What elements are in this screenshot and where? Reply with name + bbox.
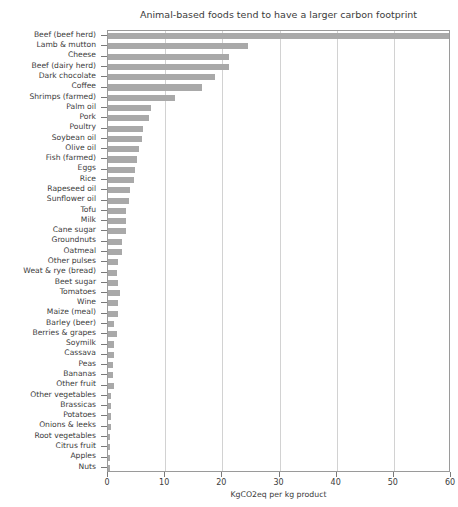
y-axis-tick-label: Weat & rye (bread) [0,267,96,275]
gridline [337,31,338,471]
bar [108,136,142,142]
bar [108,403,111,409]
y-axis-tick-label: Bananas [0,370,96,378]
y-axis-tick [101,374,107,375]
y-axis-tick-label: Maize (meal) [0,308,96,316]
page-title: Animal-based foods tend to have a larger… [107,9,450,20]
gridline [222,31,223,471]
y-axis-tick-label: Berries & grapes [0,329,96,337]
y-axis-tick [101,210,107,211]
bar [108,167,135,173]
y-axis-tick [101,35,107,36]
x-axis-tick [279,472,280,477]
x-axis-tick-label: 10 [144,478,184,487]
y-axis-tick [101,169,107,170]
bar [108,239,122,245]
y-axis-tick-label: Other fruit [0,380,96,388]
y-axis-tick [101,292,107,293]
x-axis-tick [336,472,337,477]
bar [108,228,126,234]
bar [108,383,114,389]
y-axis-tick [101,148,107,149]
y-axis-tick-label: Barley (beer) [0,319,96,327]
y-axis-tick-label: Olive oil [0,144,96,152]
bar [108,455,110,461]
y-axis-tick [101,333,107,334]
y-axis-tick-label: Brassicas [0,401,96,409]
y-axis-tick [101,179,107,180]
y-axis-tick-label: Beef (dairy herd) [0,62,96,70]
y-axis-tick-label: Citrus fruit [0,442,96,450]
y-axis-tick-label: Other vegetables [0,391,96,399]
bar [108,444,110,450]
bar [108,198,129,204]
y-axis-tick-label: Onions & leeks [0,421,96,429]
y-axis-tick-label: Eggs [0,164,96,172]
y-axis-tick-label: Fish (farmed) [0,154,96,162]
x-axis-tick-label: 60 [430,478,458,487]
y-axis-tick [101,302,107,303]
bar [108,331,117,337]
bar [108,372,113,378]
y-axis-tick [101,364,107,365]
y-axis-tick-label: Coffee [0,82,96,90]
bar [108,64,229,70]
bar [108,424,111,430]
y-axis-tick [101,76,107,77]
y-axis-tick-label: Soybean oil [0,134,96,142]
y-axis-tick [101,87,107,88]
y-axis-tick [101,415,107,416]
bar [108,300,118,306]
bar [108,105,151,111]
carbon-footprint-chart-figure: Animal-based foods tend to have a larger… [0,0,458,507]
y-axis-tick [101,107,107,108]
bar [108,249,122,255]
y-axis-tick-label: Sunflower oil [0,195,96,203]
y-axis-tick-label: Potatoes [0,411,96,419]
y-axis-tick-label: Soymilk [0,339,96,347]
y-axis-tick [101,138,107,139]
bar [108,413,111,419]
bar [108,54,229,60]
y-axis-tick [101,251,107,252]
x-axis-label: KgCO2eq per kg product [107,490,450,499]
y-axis-tick-label: Root vegetables [0,432,96,440]
bar [108,146,139,152]
y-axis-tick-label: Poultry [0,123,96,131]
gridline [394,31,395,471]
y-axis-tick-label: Cheese [0,51,96,59]
bar [108,84,202,90]
x-axis-tick-label: 0 [87,478,127,487]
bar [108,341,114,347]
x-axis-tick [221,472,222,477]
y-axis-tick [101,467,107,468]
y-axis-tick-label: Rapeseed oil [0,185,96,193]
bar [108,187,130,193]
y-axis-tick [101,128,107,129]
y-axis-tick [101,282,107,283]
bar [108,270,117,276]
y-axis-tick-label: Palm oil [0,103,96,111]
y-axis-tick-label: Shrimps (farmed) [0,93,96,101]
y-axis-tick [101,323,107,324]
bar [108,362,113,368]
y-axis-tick [101,230,107,231]
y-axis-tick-label: Nuts [0,463,96,471]
y-axis-tick [101,200,107,201]
gridline [280,31,281,471]
y-axis-tick-label: Tomatoes [0,288,96,296]
y-axis-tick [101,261,107,262]
y-axis-tick-label: Cane sugar [0,226,96,234]
bar [108,43,248,49]
x-axis-tick [164,472,165,477]
bar [108,321,114,327]
x-axis-tick [393,472,394,477]
y-axis-tick-label: Wine [0,298,96,306]
y-axis-tick-label: Dark chocolate [0,72,96,80]
y-axis-tick [101,56,107,57]
y-axis-tick [101,395,107,396]
x-axis-tick [107,472,108,477]
y-axis-tick-label: Milk [0,216,96,224]
y-axis-tick [101,405,107,406]
y-axis-tick [101,385,107,386]
